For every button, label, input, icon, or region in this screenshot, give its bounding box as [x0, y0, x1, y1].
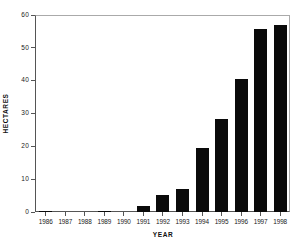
bar-slot: [75, 15, 95, 212]
y-axis-tick-mark: [31, 113, 35, 114]
x-axis-tick-mark: [104, 212, 105, 216]
bar-slot: [114, 15, 134, 212]
y-axis-tick-mark: [31, 15, 35, 16]
bar-slot: [212, 15, 232, 212]
x-axis-tick-mark: [65, 212, 66, 216]
bar: [235, 79, 248, 212]
x-axis-tick-mark: [221, 212, 222, 216]
y-axis-title: HECTARES: [2, 15, 12, 212]
x-axis-tick-label: 1988: [75, 219, 95, 229]
y-axis-tick-label: 10: [21, 175, 29, 182]
bar: [215, 119, 228, 212]
y-axis-tick-label: 0: [25, 208, 29, 215]
x-axis-tick-label: 1993: [173, 219, 193, 229]
x-axis-tick-mark: [123, 212, 124, 216]
bar: [156, 195, 169, 212]
y-axis-tick-mark: [31, 212, 35, 213]
x-axis-tick-mark: [45, 212, 46, 216]
x-axis-tick-label: 1992: [153, 219, 173, 229]
bar-slot: [36, 15, 56, 212]
x-axis-tick-mark: [241, 212, 242, 216]
x-axis-tick-mark: [280, 212, 281, 216]
x-axis-tick-mark: [182, 212, 183, 216]
x-axis-tick-label: 1994: [192, 219, 212, 229]
y-axis-tick-label: 30: [21, 110, 29, 117]
x-axis-tick-label: 1998: [270, 219, 290, 229]
y-axis-tick-label: 60: [21, 11, 29, 18]
x-axis-tick-label: 1987: [56, 219, 76, 229]
bar-slot: [270, 15, 290, 212]
x-axis-tick-label: 1997: [251, 219, 271, 229]
y-axis-tick-mark: [31, 146, 35, 147]
bar: [274, 25, 287, 212]
x-axis-title: YEAR: [36, 231, 290, 238]
bar-slot: [192, 15, 212, 212]
x-axis-tick-mark: [84, 212, 85, 216]
bar-slot: [134, 15, 154, 212]
bar-slot: [251, 15, 271, 212]
y-axis-tick-label: 40: [21, 77, 29, 84]
x-axis-tick-label: 1996: [231, 219, 251, 229]
bar-slot: [153, 15, 173, 212]
bar-chart: HECTARES 0102030405060 19861987198819891…: [0, 0, 304, 251]
x-axis-tick-label: 1990: [114, 219, 134, 229]
y-axis-tick-mark: [31, 47, 35, 48]
x-axis-tick-label: 1995: [212, 219, 232, 229]
y-axis-tick-label: 50: [21, 44, 29, 51]
y-axis-tick-label: 20: [21, 143, 29, 150]
x-axis-tick-label: 1989: [95, 219, 115, 229]
x-axis-tick-mark: [162, 212, 163, 216]
bar: [176, 189, 189, 212]
x-axis-tick-mark: [260, 212, 261, 216]
bar-slot: [95, 15, 115, 212]
y-axis-tick-mark: [31, 80, 35, 81]
x-axis-tick-label: 1986: [36, 219, 56, 229]
bar-slot: [173, 15, 193, 212]
x-axis-labels: 1986198719881989199019911992199319941995…: [36, 219, 290, 229]
x-axis-tick-mark: [202, 212, 203, 216]
x-axis-tick-label: 1991: [134, 219, 154, 229]
y-axis-tick-mark: [31, 179, 35, 180]
bar-slot: [231, 15, 251, 212]
bar-slot: [56, 15, 76, 212]
bar-series: [36, 15, 290, 212]
bar: [254, 29, 267, 212]
x-axis-tick-mark: [143, 212, 144, 216]
y-axis: HECTARES 0102030405060: [0, 0, 35, 251]
bar: [196, 148, 209, 212]
